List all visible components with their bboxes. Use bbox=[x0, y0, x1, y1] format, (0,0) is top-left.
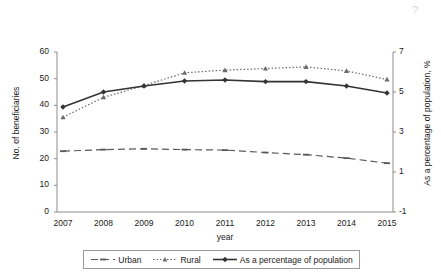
dotted-line-with-triangle-marker bbox=[152, 255, 178, 264]
data-point-marker bbox=[182, 149, 188, 151]
data-point-marker bbox=[182, 70, 187, 75]
chart-legend: UrbanRuralAs a percentage of population bbox=[83, 250, 360, 269]
data-point-marker bbox=[101, 89, 106, 94]
data-point-marker bbox=[263, 79, 268, 84]
data-point-marker bbox=[222, 149, 228, 151]
legend-item-urban[interactable]: Urban bbox=[90, 255, 141, 265]
data-point-marker bbox=[263, 66, 268, 71]
dashed-line-with-arrow-marker bbox=[90, 255, 116, 264]
chart-container: No. of beneficiaries As a percentage of … bbox=[0, 0, 441, 274]
data-point-marker bbox=[303, 154, 309, 156]
data-point-marker bbox=[344, 68, 349, 73]
data-point-marker bbox=[222, 77, 227, 82]
legend-label: As a percentage of population bbox=[240, 255, 353, 265]
legend-label: Urban bbox=[118, 255, 141, 265]
data-point-marker bbox=[101, 149, 107, 151]
data-point-marker bbox=[384, 77, 389, 82]
corner-artifact-glyph: ? bbox=[412, 4, 418, 16]
data-point-marker bbox=[303, 79, 308, 84]
legend-item-as-a-percentage-of-population[interactable]: As a percentage of population bbox=[212, 255, 353, 265]
axis-tick-marks bbox=[54, 52, 396, 212]
series-urban bbox=[60, 148, 390, 164]
data-point-marker bbox=[141, 83, 146, 88]
data-series-layer bbox=[60, 64, 390, 164]
data-point-marker bbox=[263, 152, 269, 154]
plot-area bbox=[0, 0, 441, 274]
legend-item-rural[interactable]: Rural bbox=[152, 255, 200, 265]
data-point-marker bbox=[182, 78, 187, 83]
data-point-marker bbox=[344, 157, 350, 159]
data-point-marker bbox=[384, 90, 389, 95]
series-as-a-percentage-of-population bbox=[60, 77, 389, 109]
legend-label: Rural bbox=[180, 255, 200, 265]
data-point-marker bbox=[60, 115, 65, 120]
solid-line-with-diamond-marker bbox=[212, 255, 238, 264]
data-point-marker bbox=[141, 148, 147, 150]
data-point-marker bbox=[344, 83, 349, 88]
data-point-marker bbox=[60, 150, 66, 152]
data-point-marker bbox=[60, 104, 65, 109]
axis-lines bbox=[57, 52, 393, 212]
data-point-marker bbox=[384, 162, 390, 164]
